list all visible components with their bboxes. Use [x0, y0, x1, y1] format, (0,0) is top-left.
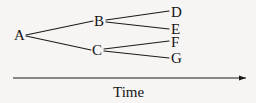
node-label-G: G — [171, 51, 182, 66]
time-axis-layer — [13, 75, 246, 80]
time-axis-caption: Time — [113, 85, 144, 100]
node-label-D: D — [171, 5, 182, 20]
node-label-A: A — [14, 28, 25, 43]
edge-C-G — [104, 51, 169, 58]
node-label-B: B — [94, 14, 104, 29]
node-label-C: C — [92, 43, 102, 58]
edge-B-D — [106, 11, 169, 20]
edge-A-B — [26, 21, 93, 35]
node-label-F: F — [171, 35, 179, 50]
tree-diagram-figure: A B C D E F G Time — [0, 0, 256, 103]
time-axis-arrowhead-icon — [239, 75, 246, 80]
edge-B-E — [106, 22, 169, 29]
edge-A-C — [26, 36, 91, 50]
edge-C-F — [104, 41, 169, 49]
